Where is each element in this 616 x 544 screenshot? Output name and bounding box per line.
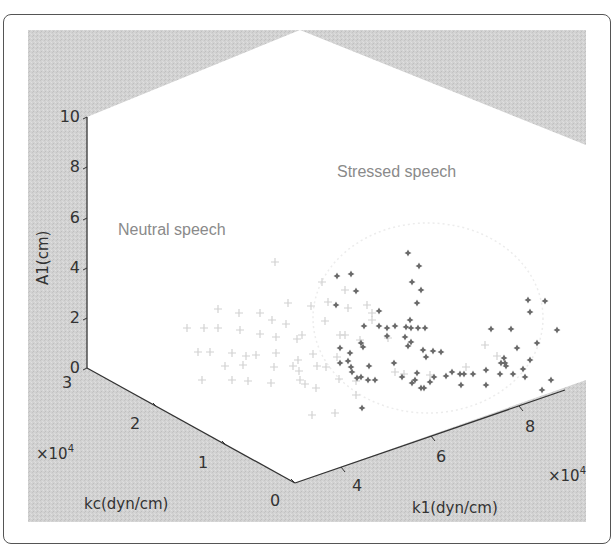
svg-text:3: 3 xyxy=(62,373,72,392)
svg-text:8: 8 xyxy=(70,157,80,176)
svg-text:8: 8 xyxy=(525,417,535,436)
svg-text:2: 2 xyxy=(70,308,80,327)
stressed-speech-annotation: Stressed speech xyxy=(337,163,456,180)
z-axis-label: A1(cm) xyxy=(34,231,52,285)
svg-text:1: 1 xyxy=(198,453,208,472)
svg-text:2: 2 xyxy=(130,414,140,433)
kc-axis-label: kc(dyn/cm) xyxy=(84,495,168,513)
svg-text:4: 4 xyxy=(70,258,80,277)
svg-text:10: 10 xyxy=(60,107,80,126)
svg-text:0: 0 xyxy=(270,491,280,510)
k1-axis-label: k1(dyn/cm) xyxy=(412,499,498,517)
svg-text:6: 6 xyxy=(70,208,80,227)
svg-text:6: 6 xyxy=(436,447,446,466)
svg-text:4: 4 xyxy=(352,476,362,495)
neutral-speech-annotation: Neutral speech xyxy=(118,221,226,238)
